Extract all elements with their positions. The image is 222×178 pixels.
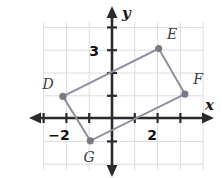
vertex-point-d (59, 93, 66, 100)
vertex-points (59, 45, 188, 144)
y-axis-arrow-down (107, 165, 118, 177)
y-axis-arrow-up (107, 6, 118, 18)
x-tick-label--2: −2 (48, 127, 69, 143)
y-axis-label: y (121, 4, 132, 22)
vertex-label-e: E (166, 26, 177, 42)
x-tick-label-2: 2 (147, 127, 157, 143)
vertex-label-f: F (192, 71, 204, 87)
y-tick-label-3: 3 (89, 43, 99, 59)
vertex-point-f (181, 91, 188, 98)
x-axis-arrow-left (29, 113, 41, 124)
vertex-point-e (155, 45, 162, 52)
x-axis-label: x (204, 96, 215, 114)
coordinate-plane-figure: −2 2 3 y x D E F G (0, 0, 222, 178)
x-axis-arrow-right (202, 113, 214, 124)
axes (35, 14, 207, 172)
vertex-point-g (87, 137, 94, 144)
quadrilateral-defg (63, 49, 185, 141)
vertex-label-d: D (41, 76, 53, 92)
figure-container: −2 2 3 y x D E F G (0, 0, 222, 178)
vertex-label-g: G (83, 149, 94, 165)
